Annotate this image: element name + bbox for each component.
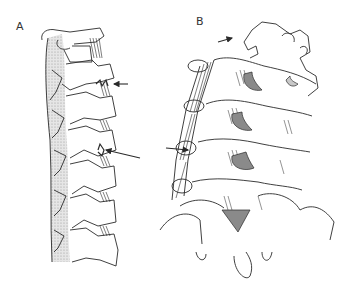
arrow-b-lower xyxy=(166,148,188,150)
panel-label-a: A xyxy=(16,21,24,32)
spine-illustration-figure: A B xyxy=(0,0,341,288)
panel-label-b: B xyxy=(196,16,204,27)
illustration-canvas xyxy=(0,0,341,288)
arrow-b-upper xyxy=(218,38,232,42)
panel-b-shaded-regions xyxy=(222,72,298,232)
arrow-a-lower xyxy=(106,150,140,158)
panel-a-arrows xyxy=(106,84,140,158)
panel-a-spine xyxy=(42,28,118,266)
